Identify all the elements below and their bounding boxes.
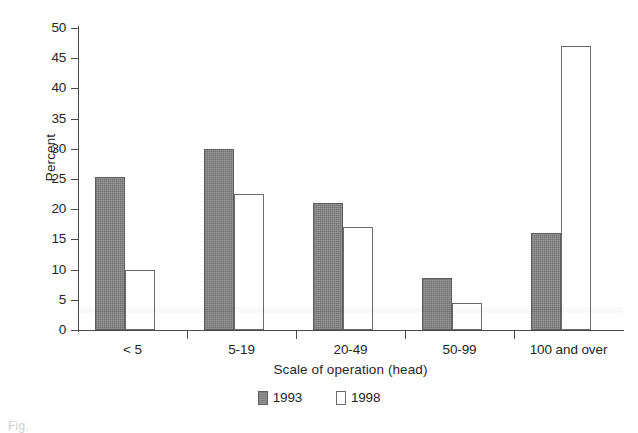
y-axis-tick-label: 30	[34, 142, 66, 155]
y-axis-tick	[71, 28, 78, 29]
bar-1998-5-19	[234, 194, 264, 330]
x-axis-tick-label: 5-19	[187, 342, 296, 358]
x-axis-tick	[296, 331, 297, 339]
y-axis-tick-label-text: 25	[34, 172, 66, 185]
y-axis-tick	[71, 270, 78, 271]
bar-1993-50-99	[422, 278, 452, 330]
x-axis-tick	[514, 331, 515, 339]
y-axis-tick	[71, 179, 78, 180]
bar-1993-100-and-over	[531, 233, 561, 330]
y-axis-tick	[71, 330, 78, 331]
legend-swatch-1998	[336, 391, 346, 405]
bar-1993-20-49	[313, 203, 343, 330]
x-axis-tick	[187, 331, 188, 339]
y-axis-tick	[71, 209, 78, 210]
x-axis-title: Scale of operation (head)	[78, 362, 623, 377]
y-axis-tick-label: 35	[34, 112, 66, 125]
y-axis-tick	[71, 58, 78, 59]
x-axis-tick-label: 100 and over	[514, 342, 623, 358]
bar-1998-20-49	[343, 227, 373, 330]
legend-swatch-1993	[258, 391, 268, 405]
y-axis-tick-label: 20	[34, 202, 66, 215]
y-axis-tick-label-text: 45	[34, 51, 66, 64]
x-axis-tick-label: 50-99	[405, 342, 514, 358]
bar-1998-100-and-over	[561, 46, 591, 330]
chart-legend: 19931998	[0, 390, 638, 405]
bar-1993-<-5	[95, 177, 125, 330]
legend-item-1993: 1993	[258, 390, 302, 405]
y-axis-tick	[71, 239, 78, 240]
y-axis-tick-label-text: 15	[34, 232, 66, 245]
y-axis-tick	[71, 119, 78, 120]
legend-item-1998: 1998	[336, 390, 380, 405]
plot-area	[78, 28, 623, 330]
x-axis-line	[78, 330, 624, 331]
bar-1998-50-99	[452, 303, 482, 330]
y-axis-tick-label: 10	[34, 263, 66, 276]
y-axis-tick	[71, 149, 78, 150]
y-axis-tick-label-text: 30	[34, 142, 66, 155]
x-axis-tick-label: 20-49	[296, 342, 405, 358]
y-axis-tick-label: 50	[34, 21, 66, 34]
caption-fragment: Fig.	[8, 419, 29, 433]
bar-1993-5-19	[204, 149, 234, 330]
bar-1998-<-5	[125, 270, 155, 330]
x-axis-tick-label: < 5	[78, 342, 187, 358]
y-axis-tick-label-text: 10	[34, 263, 66, 276]
y-axis-tick-label-text: 0	[34, 323, 66, 336]
y-axis-tick-label: 25	[34, 172, 66, 185]
x-axis-tick	[405, 331, 406, 339]
legend-label-1993: 1993	[273, 390, 302, 405]
y-axis-tick-label-text: 40	[34, 81, 66, 94]
y-axis-tick-label: 40	[34, 81, 66, 94]
y-axis-tick-label: 0	[34, 323, 66, 336]
y-axis-tick-label: 15	[34, 232, 66, 245]
y-axis-tick-label: 45	[34, 51, 66, 64]
y-axis-tick-label: 5	[34, 293, 66, 306]
y-axis-tick	[71, 88, 78, 89]
y-axis-tick-label-text: 5	[34, 293, 66, 306]
y-axis-tick-label-text: 50	[34, 21, 66, 34]
legend-label-1998: 1998	[351, 390, 380, 405]
y-axis-tick-label-text: 35	[34, 112, 66, 125]
y-axis-tick-label-text: 20	[34, 202, 66, 215]
y-axis-tick	[71, 300, 78, 301]
